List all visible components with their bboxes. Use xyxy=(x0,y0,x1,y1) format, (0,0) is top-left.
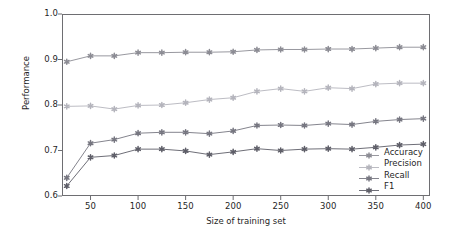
legend-swatch-icon xyxy=(358,146,380,157)
legend-item-accuracy[interactable]: Accuracy xyxy=(358,146,434,158)
legend-swatch-icon xyxy=(358,181,380,192)
legend-item-f1[interactable]: F1 xyxy=(358,181,434,193)
series-layer xyxy=(0,0,466,235)
legend-label: Precision xyxy=(380,158,422,168)
series-precision xyxy=(65,81,426,112)
legend-swatch-icon xyxy=(358,158,380,169)
legend-label: Recall xyxy=(380,170,409,180)
legend: AccuracyPrecisionRecallF1 xyxy=(358,146,434,192)
legend-swatch-icon xyxy=(358,169,380,180)
series-accuracy xyxy=(65,45,426,65)
chart-figure: 0.60.70.80.91.0 50100150200250300350400 … xyxy=(0,0,466,235)
legend-item-recall[interactable]: Recall xyxy=(358,169,434,181)
legend-item-precision[interactable]: Precision xyxy=(358,158,434,170)
legend-label: F1 xyxy=(380,181,394,191)
series-line xyxy=(67,47,424,62)
series-line xyxy=(67,83,424,109)
legend-label: Accuracy xyxy=(380,147,423,157)
